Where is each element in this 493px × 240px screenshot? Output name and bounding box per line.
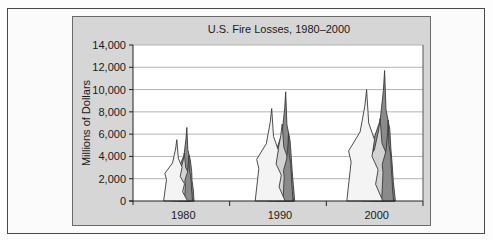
y-tick-label: 2,000 (98, 173, 126, 185)
x-tick-label: 2000 (364, 209, 388, 221)
x-tick-label: 1980 (171, 209, 195, 221)
y-tick-label: 4,000 (98, 150, 126, 162)
y-tick-label: 10,000 (92, 84, 126, 96)
y-axis-label: Millions of Dollars (80, 79, 92, 166)
chart-title: U.S. Fire Losses, 1980–2000 (208, 23, 350, 35)
y-tick-label: 0 (120, 195, 126, 207)
y-tick-label: 12,000 (92, 61, 126, 73)
y-tick-label: 14,000 (92, 39, 126, 51)
y-ticks: 02,0004,0006,0008,00010,00012,00014,000 (92, 39, 133, 207)
y-tick-label: 8,000 (98, 106, 126, 118)
y-tick-label: 6,000 (98, 128, 126, 140)
x-tick-label: 1990 (268, 209, 292, 221)
fire-losses-chart: U.S. Fire Losses, 1980–2000 Millions of … (0, 0, 493, 240)
x-ticks: 198019902000 (171, 201, 423, 221)
